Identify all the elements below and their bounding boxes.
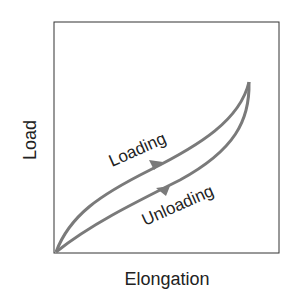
x-axis-label: Elongation xyxy=(124,269,209,289)
y-axis-label: Load xyxy=(20,120,40,160)
hysteresis-diagram: Loading Unloading Load Elongation xyxy=(0,0,297,295)
unloading-label: Unloading xyxy=(139,181,217,229)
